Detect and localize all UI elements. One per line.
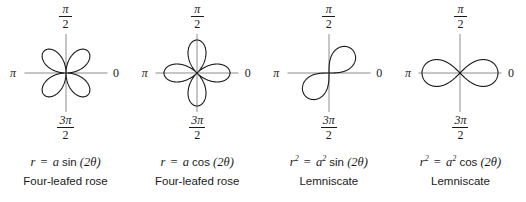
equation: r = a sin (2θ) [0,154,131,171]
fraction-denominator: 2 [455,17,465,30]
fraction-denominator: 2 [192,128,202,141]
curve-name: Lemniscate [395,173,526,190]
fraction-denominator: 2 [324,17,334,30]
angle-label-top: π 2 [59,0,72,34]
fraction-denominator: 2 [60,128,70,141]
angle-label-left: π [10,67,16,79]
fraction-numerator: π [324,3,334,16]
equation: r2 = a2 sin (2θ) [263,154,394,171]
angle-label-top: π 2 [191,0,204,34]
fraction-3pi-over-2: 3π 2 [57,114,73,141]
fraction-3pi-over-2: 3π 2 [452,114,468,141]
plot-area: π 0 [132,34,263,112]
fraction-denominator: 2 [455,128,465,141]
fraction-denominator: 2 [324,128,334,141]
fraction-numerator: π [192,3,202,16]
panel-lemniscate-cos: π 2 π 0 3π 2 r2 = a2 cos ( [395,0,526,202]
angle-label-bottom: 3π 2 [57,112,73,148]
angle-label-right: 0 [376,67,382,79]
angle-label-bottom: 3π 2 [189,112,205,148]
fraction-3pi-over-2: 3π 2 [321,114,337,141]
panel-caption: r = a cos (2θ) Four-leafed rose [132,148,263,190]
fraction-numerator: 3π [57,114,73,127]
fraction-pi-over-2: π 2 [59,3,72,30]
panel-caption: r2 = a2 cos (2θ) Lemniscate [395,148,526,190]
angle-label-left: π [142,67,148,79]
polar-plot-svg [395,34,526,112]
polar-plot-svg [132,34,263,112]
angle-label-top: π 2 [322,0,335,34]
fraction-numerator: 3π [321,114,337,127]
polar-curves-figure: π 2 π 0 3π 2 r = a sin (2θ [0,0,526,202]
polar-plot-svg [0,34,131,112]
fraction-pi-over-2: π 2 [454,3,467,30]
fraction-denominator: 2 [192,17,202,30]
panel-lemniscate-sin: π 2 π 0 3π 2 r2 = a2 sin ( [263,0,394,202]
fraction-pi-over-2: π 2 [322,3,335,30]
panel-four-leafed-rose-cos: π 2 π 0 3π 2 r = a cos (2θ [132,0,263,202]
equation: r = a cos (2θ) [132,154,263,171]
curve-name: Four-leafed rose [0,173,131,190]
plot-area: π 0 [263,34,394,112]
angle-label-right: 0 [245,67,251,79]
angle-label-right: 0 [113,67,119,79]
fraction-numerator: 3π [189,114,205,127]
fraction-numerator: 3π [452,114,468,127]
angle-label-left: π [405,67,411,79]
angle-label-top: π 2 [454,0,467,34]
angle-label-right: 0 [508,67,514,79]
fraction-pi-over-2: π 2 [191,3,204,30]
angle-label-bottom: 3π 2 [321,112,337,148]
plot-area: π 0 [395,34,526,112]
panel-caption: r2 = a2 sin (2θ) Lemniscate [263,148,394,190]
curve-name: Lemniscate [263,173,394,190]
fraction-numerator: π [455,3,465,16]
curve-name: Four-leafed rose [132,173,263,190]
fraction-numerator: π [60,3,70,16]
plot-area: π 0 [0,34,131,112]
polar-plot-svg [263,34,394,112]
equation: r2 = a2 cos (2θ) [395,154,526,171]
fraction-3pi-over-2: 3π 2 [189,114,205,141]
panel-caption: r = a sin (2θ) Four-leafed rose [0,148,131,190]
angle-label-bottom: 3π 2 [452,112,468,148]
angle-label-left: π [273,67,279,79]
fraction-denominator: 2 [61,17,71,30]
panel-four-leafed-rose-sin: π 2 π 0 3π 2 r = a sin (2θ [0,0,131,202]
